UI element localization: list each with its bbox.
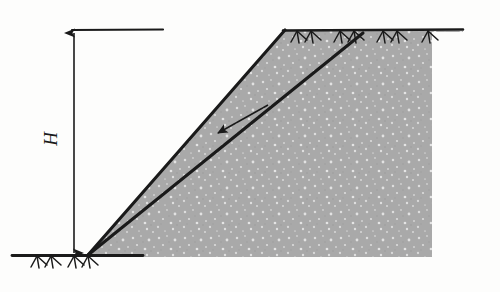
- soil-bottom-trim: [80, 257, 440, 265]
- figure-canvas: [0, 0, 500, 292]
- height-label: H: [40, 132, 62, 146]
- top-ground-line: [283, 30, 463, 31]
- slope-stability-figure: H: [0, 0, 500, 292]
- soil-mass-group: [80, 31, 472, 265]
- soil-right-mask: [432, 32, 472, 260]
- soil-body-fill: [88, 31, 463, 257]
- ground-hatch-base-1: [31, 256, 61, 268]
- dimension-extension-line-top: [72, 30, 163, 31]
